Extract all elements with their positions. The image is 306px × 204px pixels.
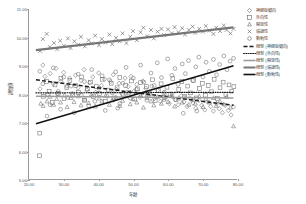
legend-item[interactable]: 線型 (協調性) [243, 64, 306, 71]
y-axis-tick-mark [27, 38, 29, 39]
x-axis-tick-mark [238, 179, 239, 181]
legend-item-label: 勤勉性 [256, 35, 268, 42]
y-axis-tick-label: 8.00 [19, 92, 27, 97]
legend-item[interactable]: 外向性 [243, 14, 306, 21]
x-axis-tick-label: 20.00 [24, 182, 34, 187]
chart-legend: 神経症傾向外向性開放性協調性勤勉性線型 (神経症傾向)線型 (外向性)線型 (開… [243, 7, 306, 78]
y-axis-tick-label: 7.00 [19, 121, 27, 126]
legend-item[interactable]: 開放性 [243, 21, 306, 28]
legend-marker-circle-icon [243, 35, 256, 42]
legend-item-label: 開放性 [256, 21, 268, 28]
y-axis-title: 評価値 [7, 69, 13, 109]
legend-item[interactable]: 協調性 [243, 28, 306, 35]
legend-item[interactable]: 線型 (神経症傾向) [243, 42, 306, 49]
legend-item-label: 外向性 [256, 14, 268, 21]
y-axis-tick-mark [27, 123, 29, 124]
legend-item[interactable]: 線型 (勤勉性) [243, 71, 306, 78]
y-axis-tick-mark [27, 95, 29, 96]
x-axis-tick-label: 30.00 [59, 182, 69, 187]
trendline [36, 27, 234, 50]
x-axis-tick-label: 50.00 [128, 182, 138, 187]
y-axis-tick-mark [27, 66, 29, 67]
y-axis-tick-label: 11.00 [17, 7, 27, 12]
legend-marker-triangle-icon [243, 21, 256, 28]
y-axis-tick-mark [27, 152, 29, 153]
x-axis-tick-mark [29, 179, 30, 181]
legend-line-swatch [243, 71, 256, 78]
x-axis-tick-mark [134, 179, 135, 181]
x-axis-tick-mark [99, 179, 100, 181]
legend-item-label: 線型 (開放性) [256, 57, 280, 64]
legend-item[interactable]: 勤勉性 [243, 35, 306, 42]
series-points-diamond [38, 63, 236, 117]
x-axis-tick-mark [64, 179, 65, 181]
legend-item[interactable]: 線型 (開放性) [243, 57, 306, 64]
x-axis-tick-mark [203, 179, 204, 181]
legend-marker-diamond-icon [243, 7, 256, 14]
y-axis-tick-label: 6.00 [19, 149, 27, 154]
x-axis-tick-label: 60.00 [163, 182, 173, 187]
legend-item[interactable]: 神経症傾向 [243, 7, 306, 14]
legend-item-label: 線型 (外向性) [256, 50, 280, 57]
legend-line-swatch [243, 50, 256, 57]
legend-line-swatch [243, 64, 256, 71]
legend-marker-square-icon [243, 14, 256, 21]
x-axis-title: 年齢 [28, 191, 238, 197]
legend-item-label: 協調性 [256, 28, 268, 35]
legend-marker-cross-icon [243, 28, 256, 35]
x-axis-tick-label: 80.00 [233, 182, 243, 187]
trendline [36, 96, 234, 98]
legend-line-swatch [243, 57, 256, 64]
y-axis-tick-label: 10.00 [17, 35, 27, 40]
legend-line-swatch [243, 43, 256, 50]
trendline [36, 92, 234, 93]
legend-item-label: 神経症傾向 [256, 7, 276, 14]
scatter-chart: 評価値 11.0010.009.008.007.006.005.0020.003… [0, 0, 306, 204]
x-axis-tick-label: 40.00 [93, 182, 103, 187]
legend-item-label: 線型 (協調性) [256, 64, 280, 71]
legend-item-label: 線型 (勤勉性) [256, 71, 280, 78]
plot-canvas [29, 9, 237, 179]
y-axis-tick-mark [27, 9, 29, 10]
x-axis-tick-label: 70.00 [198, 182, 208, 187]
x-axis-tick-mark [168, 179, 169, 181]
legend-item[interactable]: 線型 (外向性) [243, 50, 306, 57]
y-axis-tick-label: 9.00 [19, 64, 27, 69]
legend-item-label: 線型 (神経症傾向) [256, 43, 288, 50]
plot-area: 11.0010.009.008.007.006.005.0020.0030.00… [28, 9, 237, 180]
